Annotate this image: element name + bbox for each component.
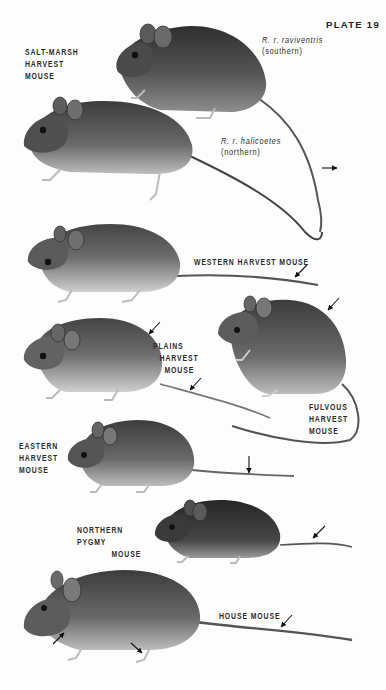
mouse-salt-marsh-northern xyxy=(24,97,322,239)
species-label-western-harvest: WESTERN HARVEST MOUSE xyxy=(194,256,309,268)
arrow-icon xyxy=(328,298,339,310)
species-label-northern-pygmy: NORTHERN PYGMY MOUSE xyxy=(77,524,143,560)
species-label-fulvous-harvest: FULVOUS HARVEST MOUSE xyxy=(309,401,348,437)
plate-number: PLATE 19 xyxy=(326,19,380,30)
arrow-icon xyxy=(281,615,292,627)
mouse-illustrations xyxy=(0,0,386,690)
arrow-icon xyxy=(313,526,325,538)
mouse-northern-pygmy xyxy=(155,500,352,563)
field-guide-plate: PLATE 19 SALT-MARSH HARVEST MOUSE R. r. … xyxy=(0,0,386,690)
species-label-house-mouse: HOUSE MOUSE xyxy=(219,610,280,622)
species-label-eastern-harvest: EASTERN HARVEST MOUSE xyxy=(19,440,58,476)
subspecies-label-southern: R. r. raviventris (southern) xyxy=(262,35,323,57)
species-label-salt-marsh: SALT-MARSH HARVEST MOUSE xyxy=(25,46,79,82)
arrow-icon xyxy=(149,322,160,334)
subspecies-label-northern: R. r. halicoetes (northern) xyxy=(221,136,281,158)
species-label-plains-harvest: PLAINS HARVEST MOUSE xyxy=(153,340,190,376)
arrow-icon xyxy=(190,378,201,390)
mouse-house xyxy=(24,570,352,662)
mouse-eastern-harvest xyxy=(68,420,294,492)
